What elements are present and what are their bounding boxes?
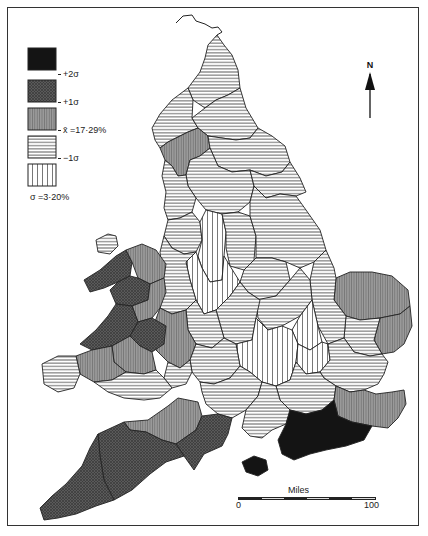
county-pembrokeshire bbox=[42, 356, 80, 392]
legend-tick-plus2sd: +2σ bbox=[58, 69, 79, 79]
county-isle-of-wight bbox=[242, 456, 268, 476]
legend-swatch-above-2sd bbox=[28, 48, 56, 70]
legend-swatch-below-minus1sd bbox=[28, 164, 56, 186]
legend-swatch-1-2sd bbox=[28, 80, 56, 102]
legend bbox=[28, 48, 56, 186]
county-lincolnshire bbox=[250, 186, 326, 268]
legend-tick-mean: x̄ =17·29% bbox=[58, 125, 106, 135]
legend-tick-plus1sd: +1σ bbox=[58, 97, 79, 107]
county-anglesey bbox=[96, 234, 118, 254]
border-line bbox=[176, 15, 222, 35]
county-norfolk bbox=[334, 272, 410, 320]
legend-sigma-label: σ =3·20% bbox=[30, 192, 69, 202]
legend-swatch-minus1sd-mean bbox=[28, 136, 56, 158]
scale-end: 100 bbox=[364, 500, 379, 510]
scale-bar-graphic bbox=[238, 497, 376, 500]
scale-title: Miles bbox=[288, 485, 309, 495]
legend-swatch-mean-1sd bbox=[28, 108, 56, 130]
north-label: N bbox=[364, 60, 376, 70]
legend-tick-minus1sd: −1σ bbox=[58, 153, 79, 163]
scale-bar: Miles 0 100 bbox=[238, 485, 378, 509]
north-arrow-icon bbox=[365, 72, 375, 118]
scale-start: 0 bbox=[236, 500, 241, 510]
choropleth-map bbox=[0, 0, 428, 536]
